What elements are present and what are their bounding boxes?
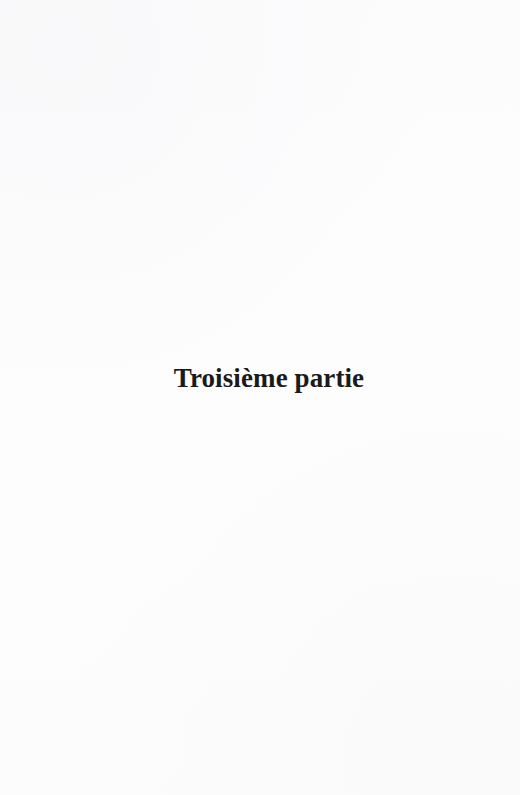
part-title: Troisième partie [174,363,364,393]
document-page: Troisième partie [0,0,520,795]
part-title-block: Troisième partie [0,345,520,411]
